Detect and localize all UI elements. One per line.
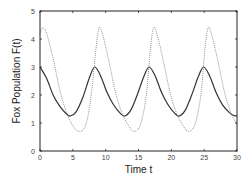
x-tick-label: 30 — [233, 154, 241, 161]
y-axis-ticks: 012345 — [31, 8, 237, 155]
x-tick-label: 20 — [167, 154, 175, 161]
x-axis-ticks: 051015202530 — [38, 11, 241, 161]
x-tick-label: 25 — [200, 154, 208, 161]
plot-frame — [40, 11, 237, 151]
x-tick-label: 5 — [71, 154, 75, 161]
y-tick-label: 0 — [31, 148, 35, 155]
x-tick-label: 0 — [38, 154, 42, 161]
y-tick-label: 4 — [31, 36, 35, 43]
x-axis-title: Time t — [125, 164, 153, 175]
chart: 051015202530 012345 Time t Fox Populatio… — [0, 0, 252, 178]
x-tick-label: 10 — [102, 154, 110, 161]
y-tick-label: 2 — [31, 92, 35, 99]
y-tick-label: 5 — [31, 8, 35, 15]
y-tick-label: 3 — [31, 64, 35, 71]
x-tick-label: 15 — [135, 154, 143, 161]
y-axis-title: Fox Population F(t) — [11, 38, 22, 123]
solid-series-line — [40, 67, 237, 116]
y-tick-label: 1 — [31, 120, 35, 127]
series-layer — [40, 27, 237, 131]
